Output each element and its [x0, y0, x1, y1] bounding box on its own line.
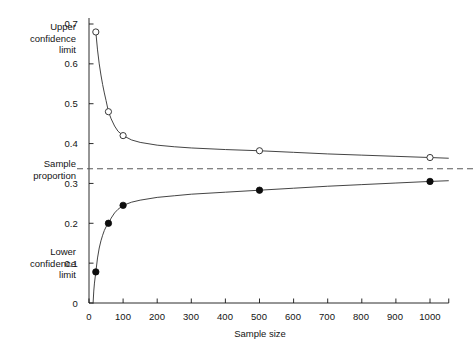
y-tick-label-0.2: 0.2: [44, 218, 78, 229]
x-tick-label-1000: 1000: [410, 311, 450, 322]
upper-confidence-limit-line3: limit: [59, 44, 76, 55]
lower-limit-marker-n100: [120, 202, 126, 208]
sample-proportion-line2: proportion: [33, 170, 76, 181]
lower-limit-marker-n1000: [427, 178, 433, 184]
x-tick-label-900: 900: [375, 311, 415, 322]
lower-confidence-limit-line2: confidence: [30, 258, 76, 269]
x-axis-title: Sample size: [200, 328, 320, 339]
y-tick-label-0: 0: [44, 298, 78, 309]
sample-proportion-line1: Sample: [44, 158, 76, 169]
sample-proportion-annotation: Sample proportion: [0, 158, 76, 181]
axes-group: [89, 18, 449, 303]
markers-group: [93, 29, 434, 275]
upper-limit-marker-n57: [105, 109, 111, 115]
y-tick-label-0.5: 0.5: [44, 98, 78, 109]
upper-limit-marker-n100: [120, 133, 126, 139]
curve-series-1: [93, 181, 430, 303]
y-tick-label-0.6: 0.6: [44, 58, 78, 69]
lower-confidence-limit-annotation: Lower confidence limit: [0, 246, 76, 281]
lower-limit-marker-n500: [256, 187, 262, 193]
upper-limit-marker-n20: [93, 29, 99, 35]
y-tick-label-0.4: 0.4: [44, 138, 78, 149]
upper-confidence-limit-line2: confidence: [30, 33, 76, 44]
confidence-limit-chart: 0.7 0.6 0.5 0.4 0.3 0.2 0.1 0 0 100 200 …: [0, 0, 476, 349]
curves-group: [93, 32, 449, 303]
curve-series-0: [96, 32, 430, 158]
lower-limit-marker-n57: [105, 220, 111, 226]
lower-confidence-limit-line1: Lower: [50, 246, 76, 257]
lower-confidence-limit-line3: limit: [59, 269, 76, 280]
upper-confidence-limit-annotation: Upper confidence limit: [0, 21, 76, 56]
upper-confidence-limit-line1: Upper: [50, 21, 76, 32]
upper-limit-marker-n500: [256, 148, 262, 154]
lower-limit-marker-n20: [93, 269, 99, 275]
upper-limit-marker-n1000: [427, 154, 433, 160]
